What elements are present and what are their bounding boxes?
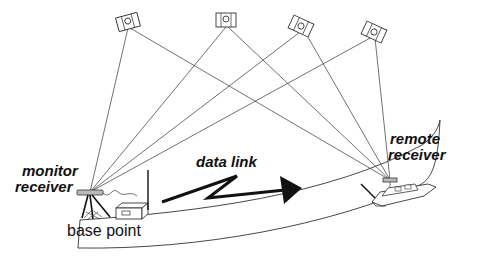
base-point-label: base point [67,222,141,239]
satellite-icon [216,13,236,27]
satellite-icon [116,12,141,31]
radio-transmitter-icon [116,170,148,219]
monitor-receiver-label-line1: monitor [22,162,79,179]
remote-receiver-label-line1: remote [390,130,440,147]
satellite-icon [361,21,387,43]
dgps-diagram: monitor receiver data link remote receiv… [0,0,477,261]
data-link-arrow [162,176,302,204]
cable [103,190,137,196]
data-link-label: data link [196,153,258,170]
boat-remote-receiver [361,178,436,206]
satellite-icon [288,15,314,37]
monitor-receiver-label-line2: receiver [15,178,74,195]
remote-receiver-label-line2: receiver [388,146,447,163]
rays-to-remote [130,27,390,180]
